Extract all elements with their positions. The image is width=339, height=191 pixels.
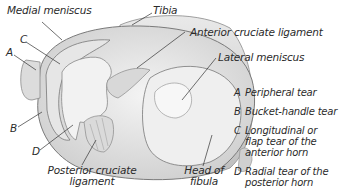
label-tibia: Tibia (153, 5, 177, 16)
marker-b: B (10, 123, 17, 134)
legend-item-c: CLongitudinal orflap tear of theanterior… (234, 125, 317, 158)
label-medial-meniscus: Medial meniscus (7, 5, 91, 16)
legend-item-b: BBucket-handle tear (234, 106, 337, 117)
label-lateral-meniscus: Lateral meniscus (218, 52, 304, 63)
marker-a: A (6, 47, 13, 58)
lateral-meniscus-shape (143, 66, 241, 165)
label-posterior-cruciate-ligament: Posterior cruciate ligament (46, 165, 138, 187)
marker-d: D (32, 146, 40, 157)
label-anterior-cruciate-ligament: Anterior cruciate ligament (190, 27, 323, 38)
legend-item-d: DRadial tear of theposterior horn (234, 166, 328, 188)
marker-c: C (20, 34, 27, 45)
label-head-of-fibula: Head of fibula (180, 165, 228, 187)
legend-item-a: APeripheral tear (234, 87, 316, 98)
